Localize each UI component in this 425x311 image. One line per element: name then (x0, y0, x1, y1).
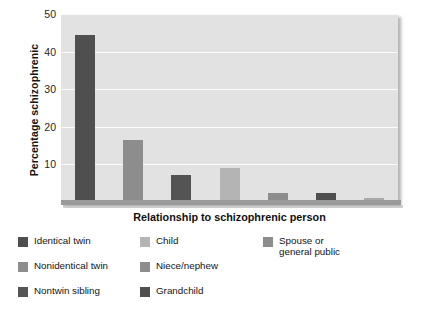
bar-chart-figure: Percentage schizophrenic 1020304050 Rela… (0, 0, 425, 311)
legend-item: Spouse or general public (263, 236, 340, 255)
legend-label: Identical twin (34, 236, 91, 247)
legend-swatch-icon (140, 237, 150, 247)
y-axis-tick-labels: 1020304050 (30, 0, 56, 210)
y-tick-20: 20 (30, 122, 56, 132)
y-tick-50: 50 (30, 9, 56, 19)
legend-item: Identical twin (18, 236, 108, 255)
legend-swatch-icon (18, 287, 28, 297)
legend-label: Child (156, 236, 178, 247)
legend-item: Grandchild (140, 286, 218, 305)
legend-swatch-icon (140, 262, 150, 272)
y-tick-40: 40 (30, 47, 56, 57)
bar-3 (220, 168, 240, 202)
legend-item: Child (140, 236, 218, 255)
x-axis-title: Relationship to schizophrenic person (61, 211, 398, 223)
legend-item: Nontwin sibling (18, 286, 108, 305)
plot-area (61, 14, 398, 202)
legend-label: Nonidentical twin (34, 261, 108, 272)
bar-0 (75, 35, 95, 202)
x-axis-line (61, 200, 401, 205)
bar-2 (171, 175, 191, 202)
legend-label: Niece/nephew (156, 261, 218, 272)
legend-label: Nontwin sibling (34, 286, 100, 297)
legend-item: Nonidentical twin (18, 261, 108, 280)
legend-swatch-icon (18, 237, 28, 247)
legend-column-1: Identical twinNonidentical twinNontwin s… (18, 236, 108, 311)
y-tick-10: 10 (30, 159, 56, 169)
legend-column-2: ChildNiece/nephewGrandchild (140, 236, 218, 311)
bar-series (61, 14, 398, 202)
legend-item: Niece/nephew (140, 261, 218, 280)
bar-1 (123, 140, 143, 202)
legend-label: Grandchild (156, 286, 203, 297)
legend-column-3: Spouse or general public (263, 236, 340, 261)
y-tick-30: 30 (30, 84, 56, 94)
legend-label: Spouse or general public (279, 236, 340, 257)
legend-swatch-icon (140, 287, 150, 297)
legend: Identical twinNonidentical twinNontwin s… (18, 236, 413, 306)
legend-swatch-icon (18, 262, 28, 272)
legend-swatch-icon (263, 237, 273, 247)
